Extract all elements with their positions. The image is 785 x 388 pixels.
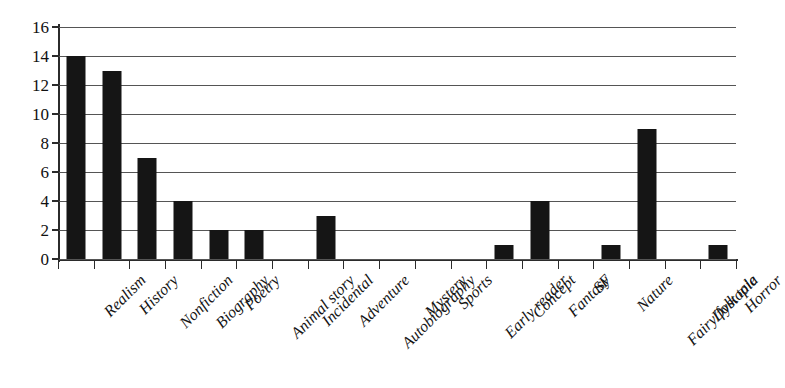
- bar[interactable]: [245, 230, 264, 259]
- x-axis-tick-mark: [451, 260, 452, 269]
- y-axis-tick-label: 4: [41, 193, 50, 210]
- bar[interactable]: [530, 201, 549, 259]
- y-axis-tick-label: 0: [41, 251, 50, 268]
- bar[interactable]: [602, 245, 621, 260]
- x-axis-category-label[interactable]: Nature: [634, 272, 676, 314]
- y-axis-tick-label: 14: [32, 48, 49, 65]
- x-axis-tick-mark: [236, 260, 237, 269]
- x-axis-tick-mark: [736, 260, 737, 269]
- y-axis-tick-label: 2: [41, 222, 50, 239]
- x-axis-tick-mark: [415, 260, 416, 269]
- bar[interactable]: [495, 245, 514, 260]
- x-axis-tick-mark: [272, 260, 273, 269]
- bar[interactable]: [138, 158, 157, 260]
- x-axis-tick-mark: [129, 260, 130, 269]
- y-axis-tick-label: 16: [32, 19, 49, 36]
- plot-area: 0246810121416: [58, 27, 736, 259]
- x-axis-tick-mark: [522, 260, 523, 269]
- x-axis-category-label[interactable]: Realism: [101, 272, 149, 320]
- bar[interactable]: [102, 71, 121, 260]
- x-axis-tick-mark: [379, 260, 380, 269]
- y-axis-tick-label: 12: [32, 77, 49, 94]
- gridline: [58, 259, 736, 260]
- x-axis-tick-mark: [486, 260, 487, 269]
- x-axis-tick-mark: [58, 260, 59, 269]
- bar[interactable]: [209, 230, 228, 259]
- bars-group: [58, 27, 736, 259]
- x-axis-tick-mark: [700, 260, 701, 269]
- bar[interactable]: [173, 201, 192, 259]
- x-axis-tick-mark: [165, 260, 166, 269]
- x-axis-tick-mark: [94, 260, 95, 269]
- bar[interactable]: [316, 216, 335, 260]
- x-axis-tick-mark: [558, 260, 559, 269]
- y-axis-tick-label: 8: [41, 135, 50, 152]
- bar[interactable]: [66, 56, 85, 259]
- x-axis-tick-mark: [629, 260, 630, 269]
- y-axis-tick-label: 10: [32, 106, 49, 123]
- x-axis-tick-mark: [665, 260, 666, 269]
- bar[interactable]: [637, 129, 656, 260]
- y-axis-tick-label: 6: [41, 164, 50, 181]
- x-axis-tick-mark: [308, 260, 309, 269]
- x-axis-tick-mark: [343, 260, 344, 269]
- bar[interactable]: [709, 245, 728, 260]
- x-axis-tick-mark: [201, 260, 202, 269]
- x-axis-tick-mark: [593, 260, 594, 269]
